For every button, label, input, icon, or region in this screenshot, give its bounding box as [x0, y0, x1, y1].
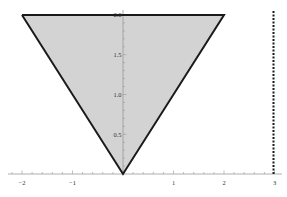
x-tick-label: 3	[273, 179, 276, 186]
x-tick-label: −1	[69, 179, 76, 186]
y-tick-label: 1.0	[113, 91, 121, 98]
x-tick-label: −2	[19, 179, 26, 186]
chart-plot: −2−11230.51.01.52.0	[0, 0, 287, 197]
x-tick-label: 2	[222, 179, 225, 186]
y-tick-label: 0.5	[113, 131, 121, 138]
x-tick-label: 1	[172, 179, 175, 186]
y-tick-label: 1.5	[113, 51, 121, 58]
y-tick-label: 2.0	[113, 11, 121, 18]
